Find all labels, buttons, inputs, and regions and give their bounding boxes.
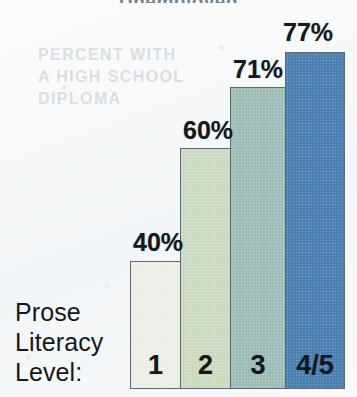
- axis-title-line-3: Level:: [15, 357, 103, 387]
- value-label-level-3: 71%: [233, 55, 283, 84]
- category-label-3: 3: [230, 350, 286, 381]
- category-label-1: 1: [130, 350, 181, 381]
- axis-title: Prose Literacy Level:: [15, 297, 103, 387]
- category-label-2: 2: [180, 350, 231, 381]
- bar-chart: Unemployed PERCENT WITH A HIGH SCHOOL DI…: [0, 0, 357, 397]
- category-label-4-5: 4/5: [285, 350, 345, 381]
- cut-off-title-text: Unemployed: [0, 0, 357, 3]
- value-label-level-4-5: 77%: [283, 18, 333, 47]
- value-label-level-1: 40%: [133, 228, 183, 257]
- axis-title-line-2: Literacy: [15, 327, 103, 357]
- value-label-level-2: 60%: [183, 116, 233, 145]
- bar-level-4-5: [285, 52, 345, 389]
- axis-title-line-1: Prose: [15, 297, 103, 327]
- bar-level-3: [230, 87, 286, 389]
